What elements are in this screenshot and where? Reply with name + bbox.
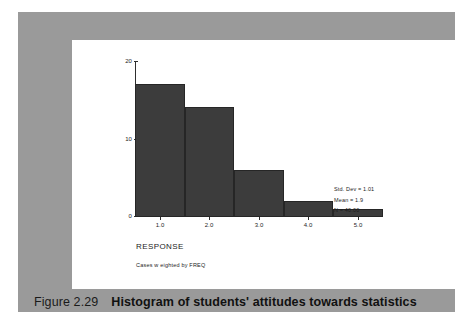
figure-page: 20 10 0 1.0 2.0	[0, 0, 470, 324]
x-tick-mark-3	[259, 217, 260, 220]
x-tick-label-3: 3.0	[249, 222, 269, 228]
y-tick-label-0: 0	[129, 213, 132, 219]
histogram-chart: 20 10 0 1.0 2.0	[72, 40, 458, 289]
y-tick-label-10: 10	[125, 136, 132, 142]
weighting-note: Cases w eighted by FREQ	[136, 262, 205, 268]
x-tick-mark-2	[209, 217, 210, 220]
x-tick-mark-4	[308, 217, 309, 220]
x-axis-title: RESPONSE	[136, 242, 184, 251]
std-dev-text: Std. Dev = 1.01	[334, 187, 444, 193]
y-tick-label-20: 20	[125, 58, 132, 64]
x-tick-mark-1	[160, 217, 161, 220]
figure-caption: Figure 2.29 Histogram of students' attit…	[34, 295, 417, 309]
plot-card: 20 10 0 1.0 2.0	[72, 40, 458, 289]
x-tick-label-5: 5.0	[348, 222, 368, 228]
histogram-bar	[185, 107, 234, 217]
histogram-bar	[234, 170, 284, 217]
x-tick-label-1: 1.0	[150, 222, 170, 228]
x-tick-label-2: 2.0	[199, 222, 219, 228]
sample-size-text: N = 40.00	[334, 208, 444, 214]
histogram-bar	[135, 84, 185, 217]
caption-title: Histogram of students' attitudes towards…	[111, 295, 416, 309]
histogram-bar	[284, 201, 333, 217]
caption-number: Figure 2.29	[34, 295, 98, 309]
y-tick-mark-20	[134, 61, 138, 62]
statistics-annotation: Std. Dev = 1.01 Mean = 1.9 N = 40.00	[334, 187, 444, 219]
mean-text: Mean = 1.9	[334, 198, 444, 204]
figure-panel: 20 10 0 1.0 2.0	[18, 12, 455, 312]
x-tick-label-4: 4.0	[298, 222, 318, 228]
